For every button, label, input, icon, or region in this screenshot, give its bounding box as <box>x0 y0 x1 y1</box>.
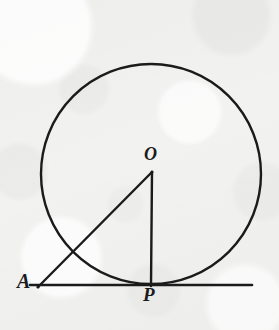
label-point-a: A <box>17 271 30 291</box>
geometry-figure-canvas: A P O <box>0 0 279 330</box>
vertex-point-a <box>36 285 39 288</box>
vertex-point-o <box>151 171 154 174</box>
label-point-o: O <box>144 145 157 163</box>
label-point-p: P <box>143 285 155 304</box>
geometry-diagram-svg <box>0 0 279 330</box>
segment-o-to-p <box>151 172 152 286</box>
